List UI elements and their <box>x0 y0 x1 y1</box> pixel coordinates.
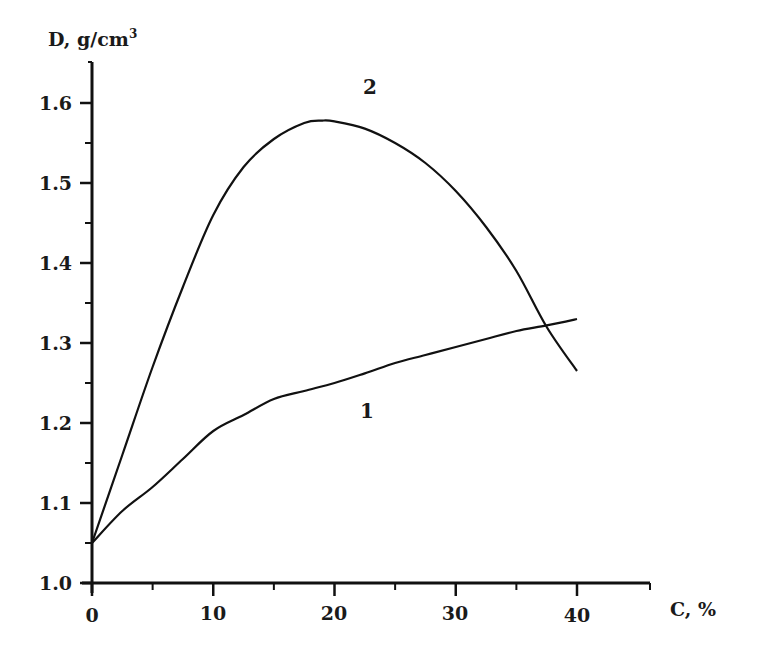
y-tick-label: 1.1 <box>39 492 72 514</box>
y-axis-title: D, g/cm3 <box>48 27 137 50</box>
curve-1-label: 1 <box>360 399 374 423</box>
chart-canvas: 1.0 1.1 1.2 1.3 1.4 1.5 1.6 0 10 20 30 4… <box>0 0 773 650</box>
y-tick-label: 1.5 <box>39 172 72 194</box>
curve-1-line <box>92 319 577 543</box>
y-tick-label: 1.2 <box>39 412 72 434</box>
x-tick-label: 20 <box>321 602 347 624</box>
x-tick-label: 40 <box>564 604 590 626</box>
x-tick-label: 10 <box>200 602 226 624</box>
y-tick-label: 1.3 <box>39 332 72 354</box>
x-ticks <box>92 583 577 596</box>
curve-2-line <box>92 120 577 543</box>
y-tick-label: 1.4 <box>39 252 72 274</box>
curve-2-label: 2 <box>363 75 377 99</box>
y-tick-label: 1.0 <box>39 572 72 594</box>
y-ticks <box>80 103 92 583</box>
x-axis-title: C, % <box>670 598 716 620</box>
x-tick-label: 30 <box>442 602 468 624</box>
y-tick-label: 1.6 <box>39 92 72 114</box>
x-tick-label: 0 <box>85 604 98 626</box>
